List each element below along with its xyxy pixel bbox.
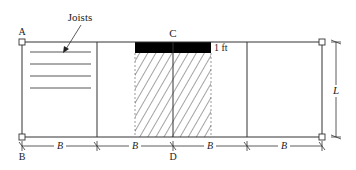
spacing-label-4: B: [281, 140, 287, 151]
point-d-label: D: [169, 151, 176, 162]
spacing-label-3: B: [207, 140, 213, 151]
column-a: [19, 39, 25, 45]
floor-framing-plan: Joists A C 1 ft B D B B B B L: [0, 0, 356, 170]
column-bottom-right: [319, 134, 325, 140]
point-b-label: B: [19, 151, 26, 162]
strip-width-label: 1 ft: [214, 42, 228, 53]
column-top-right: [319, 39, 325, 45]
joists-leader: [66, 25, 81, 49]
point-c-label: C: [169, 27, 176, 39]
joists-label: Joists: [68, 11, 92, 23]
length-label: L: [332, 84, 339, 96]
spacing-label-2: B: [132, 140, 138, 151]
spacing-label-1: B: [57, 140, 63, 151]
column-b: [19, 134, 25, 140]
point-a-label: A: [18, 26, 26, 37]
